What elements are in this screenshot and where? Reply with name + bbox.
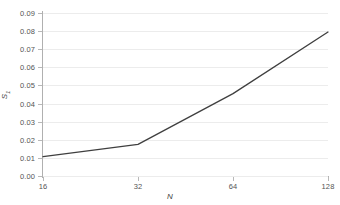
x-tick-mark xyxy=(43,177,44,181)
y-tick-mark xyxy=(38,31,42,32)
y-tick-mark xyxy=(38,85,42,86)
series-line-s1 xyxy=(43,32,328,157)
x-axis-title: N xyxy=(0,192,340,201)
line-chart: 0.000.010.020.030.040.050.060.070.080.09… xyxy=(0,0,340,205)
y-tick-mark xyxy=(38,49,42,50)
x-tick-label: 64 xyxy=(229,182,238,191)
y-tick-mark xyxy=(38,13,42,14)
y-tick-mark xyxy=(38,176,42,177)
gridline-y xyxy=(43,176,328,177)
x-tick-mark xyxy=(328,177,329,181)
y-tick-label: 0.03 xyxy=(20,117,35,126)
x-tick-label: 128 xyxy=(322,182,335,191)
x-tick-label: 32 xyxy=(134,182,143,191)
y-tick-label: 0.04 xyxy=(20,99,35,108)
y-tick-mark xyxy=(38,140,42,141)
y-tick-mark xyxy=(38,122,42,123)
y-tick-mark xyxy=(38,158,42,159)
y-axis-title-subscript: 1 xyxy=(5,91,11,94)
y-tick-label: 0.01 xyxy=(20,153,35,162)
y-axis-title-base: S xyxy=(0,94,9,99)
plot-area xyxy=(43,13,328,176)
y-tick-label: 0.05 xyxy=(20,81,35,90)
y-tick-label: 0.02 xyxy=(20,135,35,144)
y-tick-label: 0.09 xyxy=(20,9,35,18)
series-line-layer xyxy=(43,13,328,176)
y-tick-label: 0.06 xyxy=(20,63,35,72)
x-tick-mark xyxy=(138,177,139,181)
x-tick-mark xyxy=(233,177,234,181)
y-tick-mark xyxy=(38,67,42,68)
y-tick-label: 0.00 xyxy=(20,172,35,181)
y-tick-label: 0.07 xyxy=(20,45,35,54)
x-tick-label: 16 xyxy=(39,182,48,191)
y-tick-mark xyxy=(38,104,42,105)
y-axis-title: S1 xyxy=(0,91,11,100)
y-tick-label: 0.08 xyxy=(20,27,35,36)
